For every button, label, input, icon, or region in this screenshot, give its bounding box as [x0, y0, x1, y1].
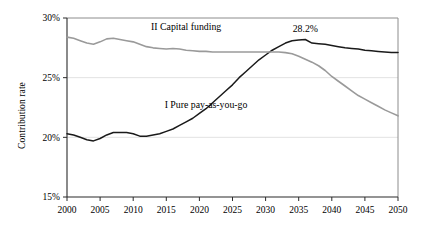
chart-figure: Contribution rate 15%20%25%30% 200020052…	[0, 0, 424, 231]
y-axis-ticks: 15%20%25%30%	[43, 13, 67, 202]
x-tick-label-2015: 2015	[157, 205, 176, 215]
data-annotations: 28.2%	[293, 23, 318, 34]
x-tick-label-2035: 2035	[289, 205, 308, 215]
y-tick-label-30%: 30%	[43, 13, 61, 23]
y-tick-label-25%: 25%	[43, 73, 61, 83]
x-tick-label-2010: 2010	[124, 205, 143, 215]
x-tick-label-2050: 2050	[389, 205, 408, 215]
line-chart-canvas: 15%20%25%30% 200020052010201520202025203…	[0, 0, 424, 231]
y-tick-label-20%: 20%	[43, 133, 61, 143]
x-tick-label-2005: 2005	[91, 205, 110, 215]
x-tick-label-2020: 2020	[190, 205, 209, 215]
x-tick-label-2030: 2030	[256, 205, 275, 215]
annotation-value-1: 28.2%	[293, 23, 318, 34]
y-tick-label-15%: 15%	[43, 192, 61, 202]
x-tick-label-2040: 2040	[322, 205, 341, 215]
series-label-1: I Pure pay-as-you-go	[165, 99, 248, 110]
x-tick-label-2000: 2000	[58, 205, 77, 215]
x-axis-ticks: 2000200520102015202020252030203520402045…	[58, 197, 408, 215]
x-tick-label-2025: 2025	[223, 205, 242, 215]
series-label-2: II Capital funding	[151, 21, 221, 32]
x-tick-label-2045: 2045	[355, 205, 374, 215]
